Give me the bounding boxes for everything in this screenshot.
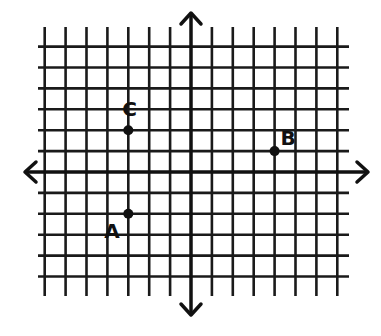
point-marker bbox=[123, 125, 133, 135]
point-label: C bbox=[122, 97, 137, 121]
point-marker bbox=[123, 209, 133, 219]
grid-lines bbox=[38, 27, 349, 296]
coordinate-plane: ABC bbox=[0, 0, 381, 336]
point-marker bbox=[270, 146, 280, 156]
point-label: B bbox=[281, 126, 296, 150]
point-label: A bbox=[104, 219, 120, 243]
plotted-points: ABC bbox=[104, 97, 296, 243]
